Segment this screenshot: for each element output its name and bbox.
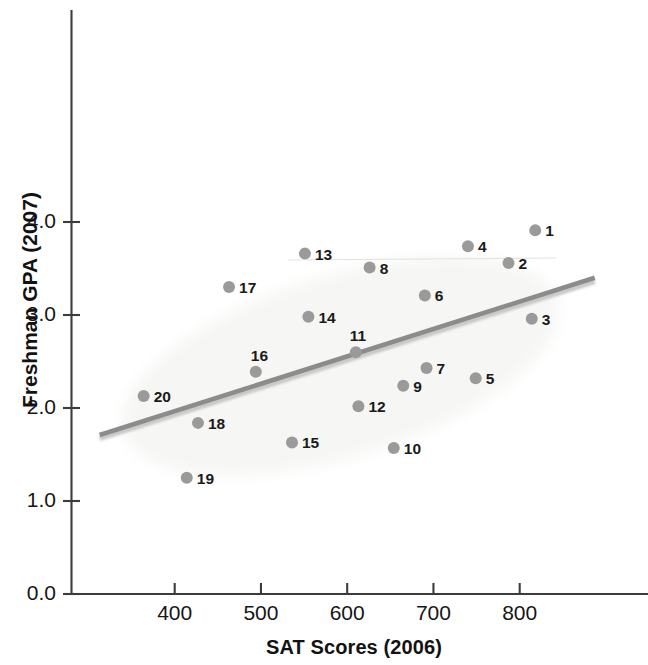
data-point-marker	[421, 362, 433, 374]
data-point-marker	[364, 262, 376, 274]
y-tick-label: 1.0	[0, 488, 56, 512]
y-tick-label: 4.0	[0, 209, 56, 233]
x-tick-label: 700	[398, 601, 468, 625]
data-point-marker	[529, 224, 541, 236]
data-point-label: 19	[197, 471, 214, 487]
data-point-label: 16	[251, 348, 268, 364]
data-point-marker	[388, 442, 400, 454]
data-point-marker	[526, 313, 538, 325]
data-point-marker	[350, 346, 362, 358]
data-point-label: 15	[302, 435, 319, 451]
data-point-label: 5	[486, 371, 495, 387]
data-point-label: 9	[413, 379, 422, 395]
data-point-label: 13	[315, 247, 332, 263]
data-point-marker	[302, 311, 314, 323]
data-point-marker	[299, 248, 311, 260]
x-tick-label: 500	[226, 601, 296, 625]
x-tick-label: 400	[140, 601, 210, 625]
data-point-label: 1	[545, 223, 554, 239]
data-point-marker	[462, 240, 474, 252]
data-point-label: 4	[478, 239, 487, 255]
data-point-marker	[286, 436, 298, 448]
data-point-marker	[250, 366, 262, 378]
data-point-label: 17	[239, 280, 256, 296]
x-axis-title: SAT Scores (2006)	[0, 636, 648, 659]
data-point-marker	[470, 372, 482, 384]
data-point-label: 6	[435, 288, 444, 304]
data-point-marker	[223, 281, 235, 293]
data-point-marker	[397, 380, 409, 392]
data-point-marker	[192, 417, 204, 429]
x-tick-label: 600	[312, 601, 382, 625]
data-point-marker	[352, 400, 364, 412]
data-point-label: 8	[380, 261, 389, 277]
data-point-label: 11	[350, 328, 366, 344]
data-point-label: 12	[368, 399, 385, 415]
data-point-label: 2	[518, 256, 527, 272]
data-point-label: 3	[542, 312, 551, 328]
y-tick-label: 3.0	[0, 302, 56, 326]
scatter-plot-figure: Freshman GPA (2007) SAT Scores (2006) 40…	[0, 0, 648, 665]
data-point-marker	[419, 289, 431, 301]
data-point-marker	[138, 390, 150, 402]
data-point-label: 18	[208, 416, 225, 432]
y-tick-label: 0.0	[0, 581, 56, 605]
data-point-label: 14	[318, 310, 335, 326]
x-tick-label: 800	[485, 601, 555, 625]
data-point-marker	[181, 472, 193, 484]
data-point-marker	[502, 257, 514, 269]
data-point-label: 10	[404, 441, 421, 457]
y-tick-label: 2.0	[0, 395, 56, 419]
data-point-label: 7	[437, 361, 446, 377]
data-point-label: 20	[154, 389, 171, 405]
plot-canvas	[0, 0, 648, 665]
